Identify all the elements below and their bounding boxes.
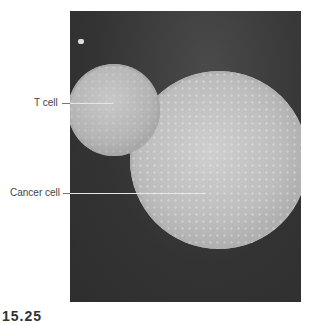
label-cancer-cell: Cancer cell	[10, 187, 60, 198]
leader-line-cancer-cell	[63, 193, 70, 194]
leader-line-cancer-cell-inner	[70, 193, 206, 194]
t-cell-shape	[70, 64, 160, 156]
leader-line-t-cell-inner	[70, 103, 113, 104]
debris-speck	[78, 39, 84, 44]
leader-line-t-cell	[62, 103, 70, 104]
figure-number: 15.25	[2, 308, 42, 324]
micrograph-photo	[70, 11, 301, 302]
label-t-cell: T cell	[34, 97, 58, 108]
